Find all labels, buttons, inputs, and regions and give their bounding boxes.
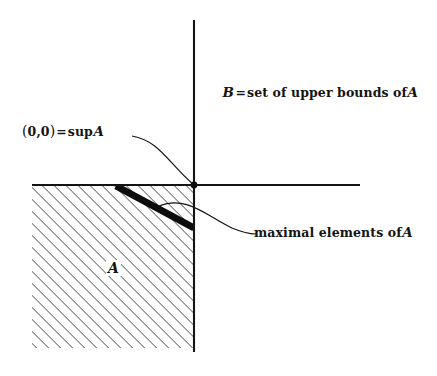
upper-bounds-label: B=set of upper bounds ofA (222, 86, 419, 100)
supremum-operator: sup (68, 124, 93, 139)
upper-bounds-variable: B (222, 84, 235, 100)
maximal-elements-set: A (402, 224, 414, 240)
supremum-label: (0,0)=supA (22, 124, 105, 139)
set-a-label: A (106, 260, 121, 276)
origin-point-dot (191, 182, 198, 189)
upper-bounds-text: set of upper bounds of (247, 85, 407, 100)
sup-leader-line (132, 136, 194, 185)
supremum-equals: = (55, 124, 68, 139)
origin-point-group (191, 182, 198, 189)
poset-diagram: B=set of upper bounds ofA (0,0)=supA max… (0, 0, 437, 376)
diagram-canvas (0, 0, 437, 376)
upper-bounds-equals: = (235, 85, 248, 100)
supremum-set: A (93, 123, 105, 139)
maximal-elements-text: maximal elements of (254, 225, 402, 240)
upper-bounds-set: A (407, 84, 419, 100)
maximal-elements-label: maximal elements ofA (254, 226, 413, 240)
supremum-coord-y: 0 (41, 124, 50, 139)
